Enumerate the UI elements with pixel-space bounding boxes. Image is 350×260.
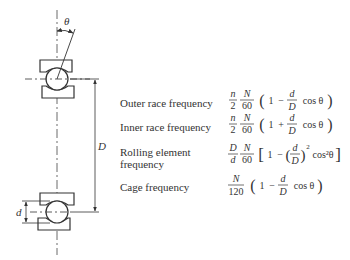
svg-text:D: D bbox=[278, 186, 287, 197]
svg-text:(: ( bbox=[250, 177, 255, 195]
svg-text:cos²θ: cos²θ bbox=[312, 149, 333, 160]
svg-text:D: D bbox=[287, 125, 296, 136]
svg-text:N: N bbox=[232, 173, 241, 184]
svg-text:(: ( bbox=[259, 116, 264, 134]
svg-text:): ) bbox=[317, 177, 322, 195]
formula-rolling-element: D d N 60 [ 1 − ( d D ) 2 cos²θ ] bbox=[228, 142, 341, 166]
svg-text:+: + bbox=[278, 119, 284, 130]
svg-text:]: ] bbox=[335, 145, 341, 164]
svg-text:d: d bbox=[231, 154, 237, 165]
svg-text:60: 60 bbox=[242, 100, 252, 111]
svg-text:60: 60 bbox=[242, 154, 252, 165]
d-label: d bbox=[16, 206, 22, 218]
svg-text:): ) bbox=[301, 147, 306, 164]
svg-text:N: N bbox=[243, 112, 252, 123]
svg-text:1: 1 bbox=[260, 180, 265, 191]
svg-text:1: 1 bbox=[268, 149, 273, 160]
svg-text:−: − bbox=[278, 95, 284, 106]
formula-inner-race: n 2 N 60 ( 1 + d D cos θ ) bbox=[229, 112, 333, 136]
svg-text:): ) bbox=[327, 92, 332, 110]
outer-race-frequency-label: Outer race frequency bbox=[120, 97, 213, 109]
svg-text:(: ( bbox=[286, 147, 291, 164]
svg-text:d: d bbox=[290, 88, 296, 99]
svg-text:d: d bbox=[293, 142, 299, 153]
svg-text:60: 60 bbox=[242, 124, 252, 135]
svg-text:(: ( bbox=[259, 92, 264, 110]
svg-text:120: 120 bbox=[229, 186, 244, 197]
svg-text:2: 2 bbox=[306, 143, 310, 151]
svg-text:2: 2 bbox=[231, 124, 236, 135]
svg-text:1: 1 bbox=[269, 119, 274, 130]
svg-text:D: D bbox=[228, 142, 237, 153]
inner-race-frequency-label: Inner race frequency bbox=[120, 121, 211, 133]
svg-text:−: − bbox=[269, 180, 275, 191]
svg-text:1: 1 bbox=[269, 95, 274, 106]
cage-frequency-label: Cage frequency bbox=[120, 181, 189, 193]
formula-outer-race: n 2 N 60 ( 1 − d D cos θ ) bbox=[229, 88, 333, 112]
formula-cage: N 120 ( 1 − d D cos θ ) bbox=[228, 173, 323, 197]
svg-text:n: n bbox=[231, 112, 236, 123]
theta-symbol: θ bbox=[64, 15, 70, 27]
svg-text:cos θ: cos θ bbox=[303, 119, 324, 130]
D-label: D bbox=[97, 140, 106, 152]
pitch-diameter-dimension bbox=[70, 79, 99, 212]
svg-text:D: D bbox=[290, 155, 299, 166]
svg-text:[: [ bbox=[258, 145, 264, 164]
svg-text:d: d bbox=[281, 173, 287, 184]
svg-text:N: N bbox=[243, 88, 252, 99]
svg-text:): ) bbox=[327, 116, 332, 134]
svg-text:cos θ: cos θ bbox=[303, 95, 324, 106]
svg-text:cos θ: cos θ bbox=[294, 180, 315, 191]
svg-text:D: D bbox=[287, 101, 296, 112]
rolling-element-frequency-label-line2: frequency bbox=[120, 158, 164, 170]
svg-text:2: 2 bbox=[231, 100, 236, 111]
svg-text:N: N bbox=[243, 142, 252, 153]
svg-text:−: − bbox=[277, 149, 283, 160]
svg-text:d: d bbox=[290, 112, 296, 123]
svg-text:n: n bbox=[231, 88, 236, 99]
bottom-bearing bbox=[30, 193, 74, 230]
rolling-element-frequency-label-line1: Rolling element bbox=[120, 146, 191, 158]
